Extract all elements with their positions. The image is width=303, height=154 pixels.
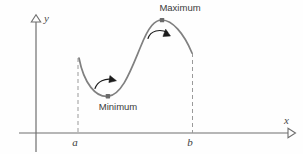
figure-canvas: y x a b Minimum Maximum: [0, 0, 303, 154]
arrow-up-icon: [31, 15, 40, 22]
curved-arrow-up-right-icon: [95, 76, 117, 89]
arrow-right-icon: [288, 128, 296, 137]
axes-group: [19, 15, 296, 152]
y-axis-label: y: [43, 12, 49, 24]
maximum-annotation-label: Maximum: [159, 2, 200, 13]
tick-label-a: a: [72, 136, 78, 148]
tick-label-b: b: [187, 136, 193, 148]
curved-arrow-down-right-icon: [148, 29, 172, 39]
extrema-graph-svg: y x a b Minimum Maximum: [0, 0, 303, 154]
dashed-guides-group: [78, 53, 193, 133]
point-marker-icon: [106, 94, 110, 98]
function-curve: [79, 20, 192, 96]
x-axis-label: x: [283, 114, 289, 126]
minimum-annotation-label: Minimum: [99, 101, 138, 112]
critical-point-markers: [106, 18, 165, 99]
point-marker-icon: [160, 18, 164, 22]
